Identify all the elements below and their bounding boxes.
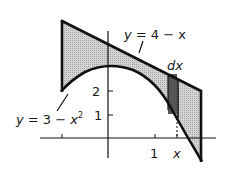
- x-tick-label-x: x: [172, 146, 181, 161]
- parabola-label-leader: [57, 94, 68, 111]
- parabola-equation-label: y = 3 − x2: [15, 111, 83, 127]
- area-between-curves-diagram: y = 4 − x y = 3 − x2 dx 2 1 1 x: [0, 0, 225, 176]
- x-tick-label-1: 1: [150, 146, 158, 161]
- line-equation-label: y = 4 − x: [123, 27, 186, 42]
- y-tick-label-2: 2: [92, 84, 100, 99]
- line-label-leader: [139, 41, 143, 53]
- y-tick-label-1: 1: [94, 108, 102, 123]
- dx-strip: [168, 74, 177, 114]
- dx-label: dx: [167, 58, 183, 73]
